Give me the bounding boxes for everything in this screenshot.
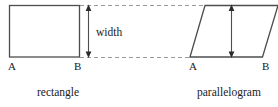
- parallelogram-width-arrow: [229, 5, 235, 59]
- rectangle-width-arrow: [86, 5, 92, 59]
- rectangle-vertex-label-b: B: [74, 61, 81, 72]
- rectangle-caption: rectangle: [37, 87, 79, 99]
- geometry-figure: A B width A B rectangle parallelogram: [0, 0, 278, 107]
- parallelogram-caption: parallelogram: [197, 87, 261, 99]
- parallelogram-vertex-label-a: A: [189, 61, 197, 72]
- parallelogram-vertex-label-b: B: [262, 61, 269, 72]
- rectangle-vertex-label-a: A: [8, 61, 16, 72]
- parallelogram-shape: [190, 6, 278, 58]
- width-dimension-label: width: [96, 27, 122, 39]
- rectangle-shape: [10, 6, 80, 58]
